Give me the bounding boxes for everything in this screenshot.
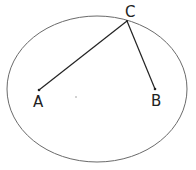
point-a-dot: [38, 89, 41, 92]
segment-cb: [127, 21, 155, 89]
center-dot: [75, 96, 77, 98]
point-b-dot: [154, 88, 157, 91]
geometry-diagram: A B C: [0, 0, 196, 170]
label-a: A: [33, 93, 44, 111]
segment-ca: [39, 21, 127, 90]
label-c: C: [125, 3, 135, 21]
label-b: B: [151, 92, 161, 110]
circle: [7, 16, 187, 162]
